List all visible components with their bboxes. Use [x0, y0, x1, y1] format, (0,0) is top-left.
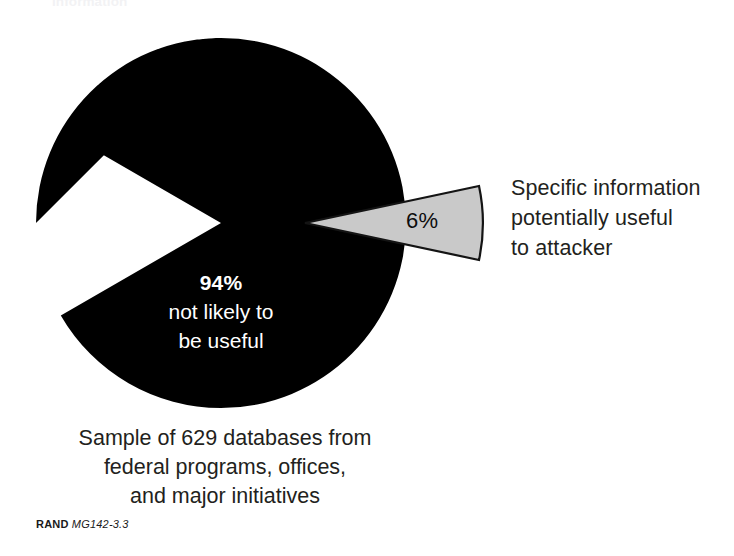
callout-line-2: potentially useful — [511, 203, 701, 233]
figure-caption: Sample of 629 databases from federal pro… — [45, 424, 405, 511]
major-slice-line-2: not likely to — [96, 297, 346, 326]
major-slice-percent: 94% — [96, 268, 346, 297]
minor-slice-percent: 6% — [406, 208, 438, 234]
callout-label: Specific information potentially useful … — [511, 173, 701, 263]
figure-id: MG142-3.3 — [72, 518, 129, 530]
rand-brand-mark: RAND — [36, 518, 69, 530]
caption-line-2: federal programs, offices, — [45, 453, 405, 482]
callout-line-1: Specific information — [511, 173, 701, 203]
caption-line-3: and major initiatives — [45, 482, 405, 511]
major-slice-label: 94% not likely to be useful — [96, 268, 346, 355]
major-slice-line-3: be useful — [96, 326, 346, 355]
figure-container: Information 94% not likely to be useful … — [0, 0, 734, 556]
callout-line-3: to attacker — [511, 233, 701, 263]
figure-source-line: RAND MG142-3.3 — [36, 518, 129, 530]
caption-line-1: Sample of 629 databases from — [45, 424, 405, 453]
